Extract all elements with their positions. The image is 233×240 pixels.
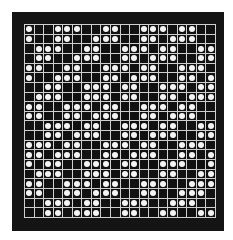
grid-cell	[159, 25, 168, 34]
grid-cell	[54, 121, 63, 130]
dot-icon	[160, 84, 166, 90]
grid-cell	[121, 141, 130, 150]
grid-cell	[159, 208, 168, 217]
dot-icon	[84, 104, 90, 110]
dot-icon	[103, 94, 109, 100]
dot-icon	[170, 94, 176, 100]
dot-icon	[131, 46, 137, 52]
grid-cell	[92, 44, 101, 53]
grid-cell	[35, 64, 44, 73]
dot-icon	[150, 181, 156, 187]
dot-icon	[93, 55, 99, 61]
grid-cell	[44, 131, 53, 140]
dot-icon	[36, 171, 42, 177]
grid-cell	[187, 44, 196, 53]
grid-cell	[178, 141, 187, 150]
dot-icon	[55, 36, 61, 42]
grid-cell	[92, 93, 101, 102]
grid-cell	[82, 170, 91, 179]
grid-cell	[82, 208, 91, 217]
grid-cell	[197, 160, 206, 169]
dot-icon	[64, 142, 70, 148]
grid-cell	[111, 112, 120, 121]
grid-cell	[73, 44, 82, 53]
dot-icon	[55, 132, 61, 138]
dot-icon	[55, 46, 61, 52]
grid-cell	[25, 179, 34, 188]
grid-cell	[197, 64, 206, 73]
grid-cell	[35, 150, 44, 159]
dot-icon	[74, 75, 80, 81]
grid-cell	[168, 25, 177, 34]
grid-cell	[140, 189, 149, 198]
dot-icon	[36, 55, 42, 61]
dot-icon	[74, 104, 80, 110]
grid-cell	[197, 54, 206, 63]
grid-cell	[140, 54, 149, 63]
dot-icon	[103, 190, 109, 196]
grid-cell	[25, 112, 34, 121]
grid-cell	[149, 208, 158, 217]
grid-cell	[168, 179, 177, 188]
grid-cell	[82, 73, 91, 82]
grid-cell	[187, 112, 196, 121]
grid-cell	[178, 121, 187, 130]
grid-cell	[111, 199, 120, 208]
grid-cell	[197, 199, 206, 208]
grid-cell	[206, 44, 215, 53]
grid-cell	[121, 35, 130, 44]
grid-cell	[92, 150, 101, 159]
dot-icon	[179, 36, 185, 42]
grid-cell	[187, 179, 196, 188]
dot-icon	[131, 123, 137, 129]
grid-cell	[168, 44, 177, 53]
dot-icon	[93, 161, 99, 167]
dot-icon	[179, 200, 185, 206]
grid-cell	[44, 64, 53, 73]
grid-cell	[178, 44, 187, 53]
grid-cell	[140, 112, 149, 121]
dot-icon	[150, 142, 156, 148]
dot-icon	[84, 123, 90, 129]
grid-cell	[197, 208, 206, 217]
grid-cell	[130, 64, 139, 73]
grid-cell	[54, 199, 63, 208]
dot-icon	[150, 65, 156, 71]
dot-icon	[93, 200, 99, 206]
dot-icon	[150, 55, 156, 61]
grid-cell	[111, 35, 120, 44]
grid-cell	[178, 150, 187, 159]
dot-icon	[26, 75, 32, 81]
grid-cell	[130, 112, 139, 121]
dot-icon	[55, 94, 61, 100]
dot-icon	[179, 161, 185, 167]
dot-icon	[122, 142, 128, 148]
grid-cell	[82, 179, 91, 188]
grid-cell	[206, 141, 215, 150]
dot-icon	[74, 55, 80, 61]
grid-cell	[168, 208, 177, 217]
dot-icon	[36, 94, 42, 100]
dot-icon	[208, 46, 214, 52]
grid-cell	[159, 112, 168, 121]
grid-cell	[178, 208, 187, 217]
grid-cell	[149, 35, 158, 44]
dot-icon	[74, 152, 80, 158]
grid-cell	[206, 121, 215, 130]
grid-cell	[206, 179, 215, 188]
dot-icon	[208, 94, 214, 100]
grid-cell	[206, 170, 215, 179]
dot-icon	[55, 123, 61, 129]
grid-cell	[168, 54, 177, 63]
dot-icon	[64, 190, 70, 196]
grid-cell	[206, 160, 215, 169]
grid-cell	[149, 44, 158, 53]
grid-cell	[121, 189, 130, 198]
grid-cell	[44, 170, 53, 179]
grid-cell	[44, 179, 53, 188]
dot-icon	[26, 104, 32, 110]
grid-cell	[159, 64, 168, 73]
dot-icon	[45, 84, 51, 90]
grid-cell	[187, 170, 196, 179]
grid-cell	[159, 199, 168, 208]
